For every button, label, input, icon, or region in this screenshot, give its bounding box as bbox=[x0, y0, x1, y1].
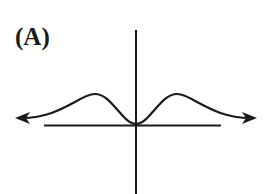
graph bbox=[0, 0, 272, 194]
figure-panel: (A) bbox=[0, 0, 272, 194]
